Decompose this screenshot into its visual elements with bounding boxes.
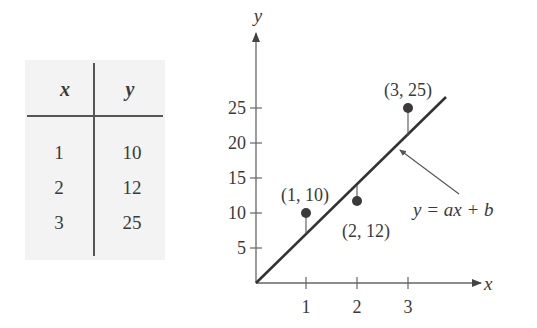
line-equation-label: y = ax + b [411,199,494,220]
residuals [306,108,408,234]
data-point [403,103,413,113]
y-tick-label: 15 [228,168,246,188]
y-tick-label: 5 [237,238,246,258]
annotation-arrow [400,150,459,194]
y-tick-label: 10 [228,203,246,223]
point-label: (2, 12) [342,221,390,242]
y-axis-label: y [252,5,263,26]
x-tick-label: 2 [353,297,362,317]
y-ticks: 5 10 15 20 25 [228,98,262,258]
y-tick-label: 20 [228,133,246,153]
x-axis-label: x [483,273,493,294]
point-label: (3, 25) [384,80,432,101]
data-point [352,196,362,206]
y-tick-label: 25 [228,98,246,118]
x-tick-label: 1 [302,297,311,317]
x-tick-label: 3 [404,297,413,317]
point-label: (1, 10) [281,185,329,206]
scatter-chart: y x 1 2 3 5 10 15 20 25 (1, 10) (2, 12) … [0,0,537,328]
data-point [301,208,311,218]
